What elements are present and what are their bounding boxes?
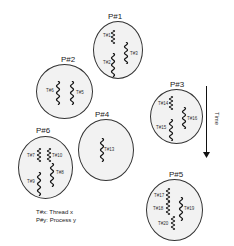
process-p1 — [93, 21, 143, 79]
thread-label: T#17 — [154, 193, 164, 198]
thread-label: T#20 — [158, 221, 168, 226]
thread-icon — [55, 81, 61, 105]
thread-icon — [69, 81, 75, 105]
thread-label: T#9 — [27, 179, 35, 184]
legend-thread: T#x: Thread x — [36, 208, 76, 216]
process-title-p4: P#4 — [87, 110, 117, 119]
thread-label: T#1 — [103, 33, 111, 38]
thread-label: T#19 — [184, 206, 194, 211]
thread-icon — [123, 42, 129, 64]
time-arrow — [206, 86, 207, 154]
thread-label: T#10 — [52, 153, 62, 158]
thread-label: T#15 — [156, 125, 166, 130]
thread-icon — [168, 96, 174, 110]
process-title-p6: P#6 — [28, 126, 58, 135]
thread-label: T#18 — [153, 206, 163, 211]
thread-icon — [49, 163, 55, 187]
legend: T#x: Thread x P#y: Process y — [36, 208, 76, 224]
thread-icon — [165, 188, 171, 202]
thread-label: T#3 — [130, 51, 138, 56]
time-label: Time — [214, 112, 220, 125]
thread-icon — [36, 148, 42, 162]
thread-icon — [36, 172, 42, 196]
thread-label: T#14 — [158, 101, 168, 106]
thread-label: T#13 — [104, 147, 114, 152]
process-title-p3: P#3 — [162, 80, 192, 89]
thread-label: T#7 — [27, 153, 35, 158]
process-title-p2: P#2 — [53, 55, 83, 64]
process-p2 — [36, 64, 93, 119]
thread-icon — [168, 119, 174, 141]
process-p6 — [18, 136, 73, 199]
thread-label: T#8 — [56, 170, 64, 175]
legend-process: P#y: Process y — [36, 216, 76, 224]
thread-label: T#2 — [103, 60, 111, 65]
thread-icon — [165, 201, 171, 215]
thread-label: T#6 — [46, 88, 54, 93]
thread-label: T#16 — [187, 116, 197, 121]
down-arrow-icon — [203, 152, 210, 158]
process-title-p5: P#5 — [161, 170, 191, 179]
thread-icon — [170, 216, 176, 230]
thread-label: T#5 — [76, 90, 84, 95]
thread-icon — [110, 53, 116, 77]
process-title-p1: P#1 — [100, 12, 130, 21]
